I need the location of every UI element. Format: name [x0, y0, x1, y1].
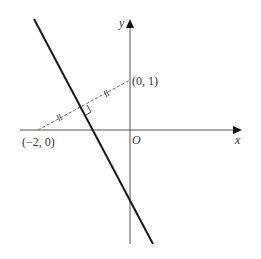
dashed-segment [38, 80, 130, 130]
diagram-svg [0, 0, 261, 259]
x-axis-label: x [235, 134, 240, 146]
right-angle-marker [86, 105, 91, 115]
perpendicular-bisector-line [34, 19, 153, 244]
equal-mark-upper [104, 90, 109, 97]
point-label-0-1: (0, 1) [132, 75, 158, 87]
equal-mark-lower [57, 114, 62, 121]
y-axis-label: y [119, 17, 124, 29]
y-axis-arrow-icon [126, 19, 134, 28]
diagram-canvas: y x O (−2, 0) (0, 1) [0, 0, 261, 259]
point-label-neg2-0: (−2, 0) [22, 136, 55, 148]
origin-label: O [132, 134, 141, 146]
